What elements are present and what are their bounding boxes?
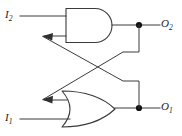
input-label-i1-subscript: 1 bbox=[9, 117, 13, 126]
logic-circuit-figure: I2 I1 O2 O1 bbox=[0, 0, 182, 136]
input-label-i1: I1 bbox=[5, 112, 12, 126]
circuit-canvas bbox=[0, 0, 182, 136]
output-label-o2-text: O bbox=[161, 17, 169, 29]
and-gate-body bbox=[66, 9, 112, 43]
output-label-o1: O1 bbox=[161, 101, 173, 115]
output-label-o2: O2 bbox=[161, 18, 173, 32]
input-label-i2: I2 bbox=[5, 9, 12, 23]
and-gate bbox=[66, 9, 112, 43]
or-gate bbox=[62, 91, 115, 127]
output-label-o1-subscript: 1 bbox=[169, 106, 173, 115]
feedback-wire-o1-to-and-gate bbox=[43, 37, 139, 109]
output-label-o1-text: O bbox=[161, 100, 169, 112]
output-label-o2-subscript: 2 bbox=[169, 23, 173, 32]
input-label-i2-subscript: 2 bbox=[9, 14, 13, 23]
or-gate-body bbox=[62, 91, 115, 127]
